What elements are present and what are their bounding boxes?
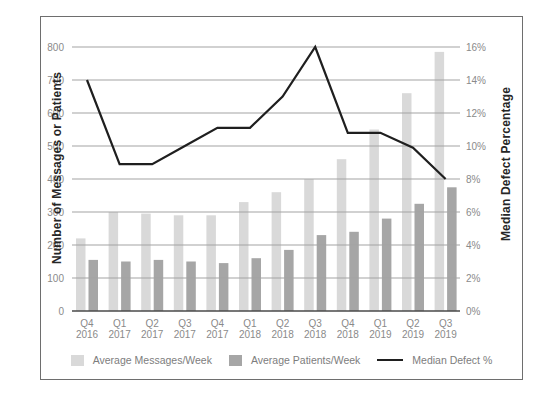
patients-bar <box>317 235 327 311</box>
patients-bar <box>382 219 392 311</box>
right-axis-tick-label: 2% <box>466 273 481 284</box>
legend-label-messages: Average Messages/Week <box>93 354 212 366</box>
x-axis-category-label: Q22019 <box>402 318 425 340</box>
right-axis-tick-label: 4% <box>466 240 481 251</box>
messages-bar <box>206 215 216 311</box>
messages-bar <box>141 214 151 311</box>
right-axis-tick-label: 12% <box>466 108 486 119</box>
right-axis-tick-label: 16% <box>466 42 486 53</box>
messages-bar <box>272 192 282 311</box>
right-axis-tick-label: 6% <box>466 207 481 218</box>
messages-bar <box>369 130 379 312</box>
messages-bar <box>239 202 249 311</box>
patients-bar <box>154 260 164 311</box>
patients-bar <box>121 262 131 312</box>
left-axis-tick-label: 0 <box>58 306 64 317</box>
messages-bar <box>174 215 184 311</box>
x-axis-category-label: Q22017 <box>141 318 164 340</box>
x-axis-category-label: Q42016 <box>76 318 99 340</box>
patients-bar <box>415 204 425 311</box>
x-axis-category-label: Q22018 <box>271 318 294 340</box>
messages-swatch-icon <box>71 355 84 366</box>
messages-bar <box>337 159 347 311</box>
legend-label-patients: Average Patients/Week <box>251 354 360 366</box>
legend-label-defect: Median Defect % <box>412 354 492 366</box>
messages-bar <box>76 238 86 311</box>
x-axis-category-label: Q32017 <box>174 318 197 340</box>
right-axis-tick-label: 8% <box>466 174 481 185</box>
left-axis-title: Number of Messages or Patients <box>50 72 64 264</box>
patients-bar <box>252 258 262 311</box>
legend-item-messages: Average Messages/Week <box>71 354 212 366</box>
patients-swatch-icon <box>229 355 242 366</box>
x-axis-category-label: Q42018 <box>337 318 360 340</box>
legend-item-patients: Average Patients/Week <box>229 354 360 366</box>
x-axis-category-label: Q12018 <box>239 318 262 340</box>
right-axis-title: Median Defect Percentage <box>499 87 513 241</box>
patients-bar <box>219 263 229 311</box>
right-axis-tick-label: 10% <box>466 141 486 152</box>
patients-bar <box>349 232 359 311</box>
x-axis-category-label: Q12019 <box>369 318 392 340</box>
patients-bar <box>447 187 457 311</box>
patients-bar <box>89 260 99 311</box>
left-axis-tick-label: 100 <box>47 273 64 284</box>
patients-bar <box>284 250 294 311</box>
messages-bar <box>109 212 119 311</box>
left-axis-tick-label: 800 <box>47 42 64 53</box>
x-axis-category-label: Q32019 <box>434 318 457 340</box>
chart-figure: 80016%70014%60012%50010%4008%3006%2004%1… <box>0 0 536 398</box>
messages-bar <box>435 52 445 311</box>
right-axis-tick-label: 14% <box>466 75 486 86</box>
patients-bar <box>186 262 196 312</box>
right-axis-tick-label: 0% <box>466 306 481 317</box>
x-axis-category-label: Q12017 <box>108 318 131 340</box>
x-axis-category-label: Q32018 <box>304 318 327 340</box>
plot-area: 80016%70014%60012%50010%4008%3006%2004%1… <box>0 0 536 398</box>
legend-item-defect: Median Defect % <box>377 354 492 366</box>
chart-legend: Average Messages/Week Average Patients/W… <box>40 352 523 368</box>
x-axis-category-label: Q42017 <box>206 318 229 340</box>
defect-line-swatch-icon <box>377 359 403 362</box>
